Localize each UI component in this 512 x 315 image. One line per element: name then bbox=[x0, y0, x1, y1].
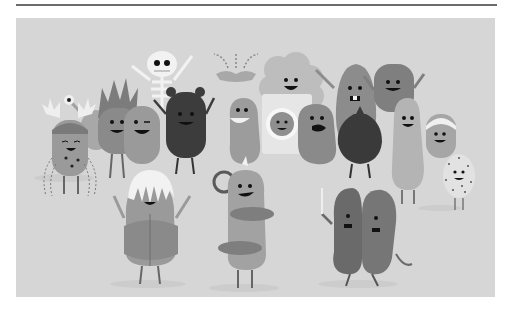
character-headband bbox=[426, 114, 456, 158]
character-shouting-bean bbox=[298, 104, 336, 164]
page: Grayscale cartoon illustration of a crow… bbox=[0, 0, 512, 315]
character-big-grin-bean bbox=[230, 98, 260, 164]
illustration-canvas bbox=[16, 18, 495, 297]
illustration-figure: Grayscale cartoon illustration of a crow… bbox=[16, 18, 495, 297]
horizontal-rule bbox=[16, 4, 497, 6]
character-winking-bean bbox=[124, 106, 160, 164]
